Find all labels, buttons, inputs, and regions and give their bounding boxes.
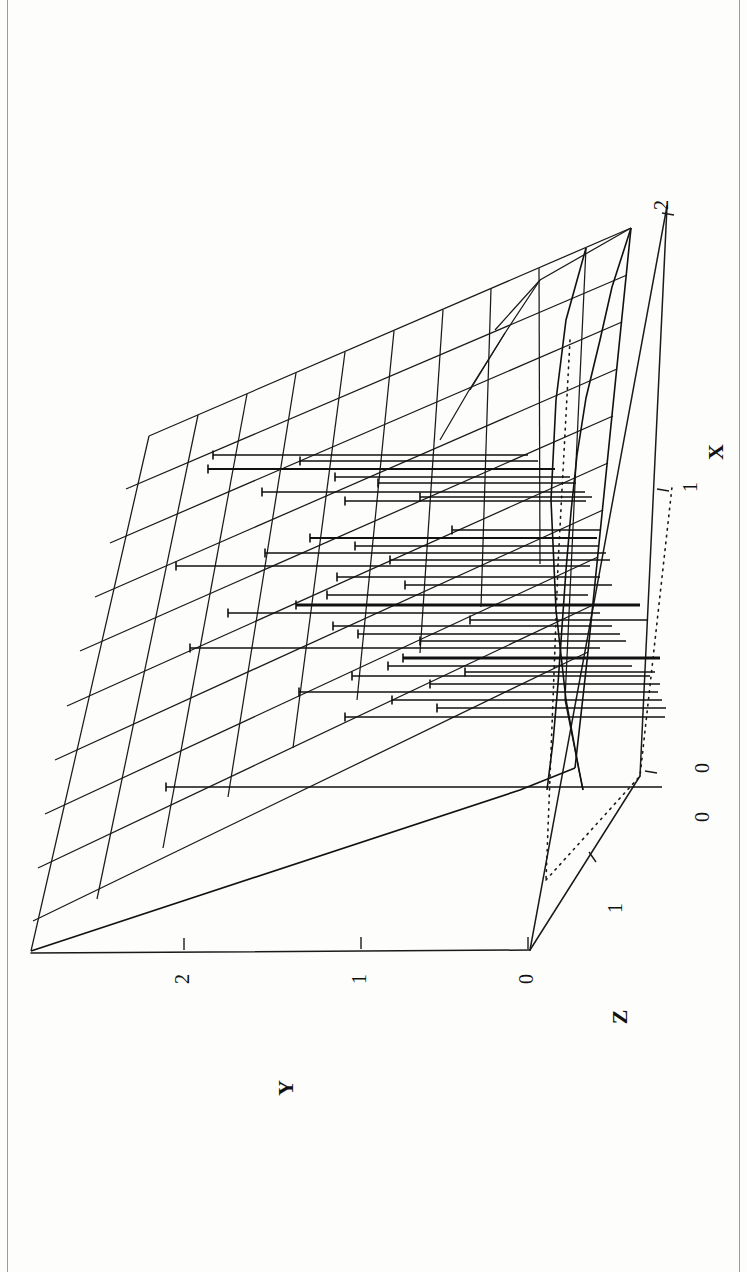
data-segment <box>452 526 600 535</box>
mesh-ridge <box>547 228 631 790</box>
data-segment <box>437 704 666 713</box>
y-tick-label-1: 1 <box>348 974 370 984</box>
data-segment <box>228 609 600 618</box>
data-segment <box>335 473 570 482</box>
z-tick-1 <box>589 852 596 862</box>
y-axis-line <box>31 950 530 953</box>
y-axis-label: Y <box>273 1080 298 1096</box>
z-tick-label-1: 1 <box>604 903 626 913</box>
tick-labels: 2 1 0 0 1 2 0 1 <box>171 200 713 984</box>
data-segment <box>299 688 658 697</box>
x-tick-2 <box>662 213 674 215</box>
data-segment <box>378 479 576 488</box>
data-segment <box>327 591 588 600</box>
data-segment <box>213 451 528 460</box>
figure-canvas: 2 1 0 0 1 2 0 1 X Y Z <box>0 0 747 1272</box>
data-segment <box>166 783 662 792</box>
data-segment <box>358 630 620 639</box>
x-tick-label-1: 1 <box>679 482 701 492</box>
z-tick-label-0: 0 <box>691 763 713 773</box>
data-segment <box>430 680 660 689</box>
data-segment <box>420 493 592 502</box>
data-segment <box>405 581 612 590</box>
z-axis-label: Z <box>607 1010 632 1025</box>
axis-titles: X Y Z <box>273 444 728 1096</box>
x-tick-label-2: 2 <box>650 200 672 210</box>
data-segment <box>265 549 606 558</box>
mesh-crease <box>440 228 631 440</box>
data-segment <box>355 542 598 551</box>
data-segment <box>403 654 660 663</box>
base-front-edge <box>640 206 667 776</box>
scanned-page: 2 1 0 0 1 2 0 1 X Y Z <box>0 0 747 1272</box>
data-segment <box>388 662 632 671</box>
y-tick-label-2: 2 <box>171 974 193 984</box>
data-segment <box>333 622 612 631</box>
x-tick-1 <box>657 489 669 491</box>
x-tick-label-0: 0 <box>691 812 713 822</box>
data-segment <box>465 668 655 677</box>
data-segment <box>310 534 597 543</box>
x-tick-0 <box>645 771 657 773</box>
mesh-lines-u <box>31 228 631 951</box>
data-segment <box>392 696 662 705</box>
data-segment <box>345 713 665 722</box>
mesh-lines-v <box>31 228 631 951</box>
data-segment <box>296 601 640 610</box>
data-segment <box>352 672 650 681</box>
x-axis-label: X <box>703 444 728 460</box>
reference-lines <box>546 340 672 880</box>
data-segment <box>176 562 590 571</box>
y-tick-label-0: 0 <box>515 974 537 984</box>
x-axis-line <box>530 206 667 950</box>
mesh-surface <box>31 228 631 951</box>
data-segment <box>345 497 586 506</box>
data-segment <box>470 616 648 625</box>
